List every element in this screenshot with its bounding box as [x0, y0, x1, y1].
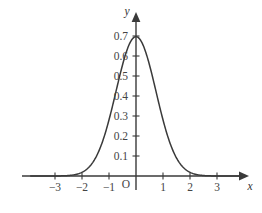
plot-background: [0, 0, 262, 213]
x-axis-tick-label: 1: [160, 181, 166, 193]
x-axis-tick-label: −3: [49, 181, 61, 193]
y-axis-tick-label: 0.5: [114, 70, 129, 82]
chart-figure: −3−2−1123 0.10.20.30.40.50.60.7 O x y: [0, 0, 262, 213]
origin-label: O: [122, 178, 130, 190]
y-axis-tick-label: 0.1: [114, 150, 129, 162]
y-axis-label: y: [123, 5, 130, 18]
x-axis-tick-label: −1: [103, 181, 115, 193]
y-axis-tick-label: 0.4: [114, 90, 129, 102]
y-axis-tick-label: 0.2: [114, 130, 129, 142]
x-axis-tick-label: 2: [187, 181, 193, 193]
x-axis-label: x: [246, 180, 253, 192]
gaussian-curve-plot: −3−2−1123 0.10.20.30.40.50.60.7 O x y: [0, 0, 262, 213]
y-axis-tick-label: 0.3: [114, 110, 129, 122]
x-axis-tick-label: 3: [214, 181, 220, 193]
y-axis-tick-label: 0.7: [114, 30, 129, 42]
y-axis-tick-label: 0.6: [114, 50, 129, 62]
x-axis-tick-label: −2: [76, 181, 88, 193]
